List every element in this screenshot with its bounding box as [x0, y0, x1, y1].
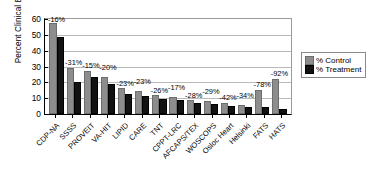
plot-area: 6050403020100 -16%-31%-15%-20%-23%-23%-2… [44, 18, 292, 115]
bar-control [49, 23, 56, 114]
bar-control [272, 79, 279, 114]
bar-control [238, 105, 245, 114]
chart-legend: % Control % Treatment [301, 52, 366, 78]
bar-percent-change-label: -23% [134, 77, 151, 86]
bar-percent-change-label: -42% [219, 93, 236, 102]
y-axis-tick-label: 50 [32, 30, 45, 40]
bar-percent-change-label: -26% [151, 86, 168, 95]
legend-label-treatment: % Treatment [316, 65, 361, 74]
bar-group: -28% [185, 19, 202, 114]
y-axis-tick-label: 40 [32, 46, 45, 56]
bar-percent-change-label: -29% [202, 87, 219, 96]
bar-treatment [108, 84, 115, 114]
bar-percent-change-label: -17% [168, 83, 185, 92]
x-axis-label-cell: CDP-NA [46, 119, 63, 171]
bar-treatment [142, 96, 149, 114]
legend-item-treatment: % Treatment [305, 65, 361, 74]
bar-control [187, 100, 194, 114]
legend-swatch-control-icon [305, 56, 314, 65]
bar-control [135, 91, 142, 114]
bar-group: -92% [271, 19, 288, 114]
bar-group: -16% [48, 19, 65, 114]
bar-percent-change-label: -92% [271, 69, 288, 78]
x-axis-labels: CDP-NASSSSPROVEITVA-HITLIPIDCARETNTCPPT-… [44, 119, 292, 171]
bar-group: -78% [254, 19, 271, 114]
bar-percent-change-label: -15% [82, 61, 99, 70]
bar-control [152, 95, 159, 114]
bar-treatment [245, 107, 252, 114]
bar-treatment [57, 37, 64, 114]
clinical-events-bar-chart: Percent Clinical Events 6050403020100 -1… [0, 0, 379, 175]
x-axis-label-cell: FATS [255, 119, 272, 171]
bar-group: -17% [168, 19, 185, 114]
bar-control [255, 90, 262, 114]
bar-percent-change-label: -78% [254, 80, 271, 89]
x-axis-label-cell: CARE [133, 119, 150, 171]
bar-percent-change-label: -34% [236, 91, 253, 100]
bar-treatment [211, 104, 218, 114]
bar-treatment [74, 82, 81, 114]
bar-group: -23% [134, 19, 151, 114]
x-axis-label-cell: VA-HIT [98, 119, 115, 171]
legend-swatch-treatment-icon [305, 65, 314, 74]
bar-group: -15% [82, 19, 99, 114]
bar-percent-change-label: -16% [48, 15, 65, 24]
x-axis-label-cell: HATS [272, 119, 289, 171]
bar-percent-change-label: -20% [99, 63, 116, 72]
bar-treatment [228, 106, 235, 114]
bar-group: -23% [117, 19, 134, 114]
bar-control [118, 88, 125, 114]
bar-control [67, 68, 74, 114]
bar-control [221, 103, 228, 115]
x-axis-label-cell: LIPID [116, 119, 133, 171]
bar-control [204, 101, 211, 114]
bar-treatment [177, 100, 184, 114]
bar-group: -34% [237, 19, 254, 114]
bar-percent-change-label: -23% [116, 79, 133, 88]
y-axis-tick-label: 60 [32, 14, 45, 24]
bar-treatment [194, 103, 201, 114]
bar-group: -26% [151, 19, 168, 114]
bar-treatment [262, 107, 269, 114]
bar-treatment [279, 109, 286, 114]
bar-percent-change-label: -28% [185, 91, 202, 100]
y-axis-tick-label: 10 [32, 93, 45, 103]
bar-control [84, 71, 91, 114]
y-axis-title: Percent Clinical Events [14, 0, 26, 75]
bar-group: -29% [202, 19, 219, 114]
bar-percent-change-label: -31% [65, 58, 82, 67]
legend-label-control: % Control [316, 56, 351, 65]
x-axis-label-cell: Helsinki [238, 119, 255, 171]
y-axis-tick-label: 30 [32, 62, 45, 72]
bar-treatment [159, 99, 166, 114]
y-axis-tick-label: 20 [32, 77, 45, 87]
x-axis-label-cell: Osloc Heart [220, 119, 237, 171]
bar-groups: -16%-31%-15%-20%-23%-23%-26%-17%-28%-29%… [46, 19, 290, 114]
bar-control [169, 97, 176, 114]
bar-treatment [91, 77, 98, 114]
bar-group: -31% [65, 19, 82, 114]
bar-treatment [125, 94, 132, 114]
legend-item-control: % Control [305, 56, 361, 65]
bar-group: -20% [99, 19, 116, 114]
bar-group: -42% [219, 19, 236, 114]
bar-control [101, 77, 108, 114]
